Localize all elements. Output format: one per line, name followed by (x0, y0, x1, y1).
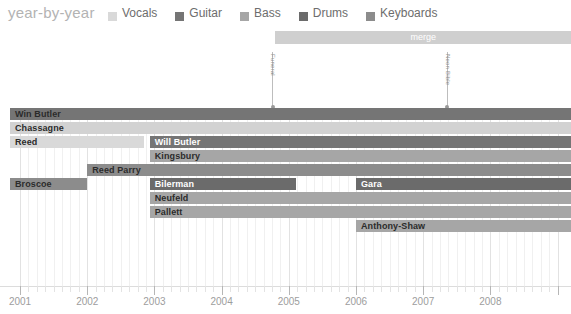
axis-tick (87, 286, 88, 295)
axis-tick (448, 286, 449, 292)
legend-item-guitar[interactable]: Guitar (175, 6, 222, 24)
axis-tick (432, 286, 433, 292)
timeline-bar-broscoe[interactable]: Broscoe (10, 178, 87, 190)
legend-label: Vocals (122, 6, 157, 20)
axis-tick-label: 2001 (9, 296, 31, 307)
axis-tick (499, 286, 500, 292)
timeline-bar-reed[interactable]: Reed (10, 136, 144, 148)
axis-tick (255, 286, 256, 292)
timeline-row: Neufeld (0, 192, 571, 204)
axis-tick (205, 286, 206, 292)
x-axis: 20012002200320042005200620072008 (0, 286, 571, 314)
timeline-row: BroscoeBilermanGara (0, 178, 571, 190)
axis-tick-label: 2007 (412, 296, 434, 307)
album-marker-label: Neon Bible (445, 54, 451, 85)
merge-period-bar: merge (275, 31, 571, 44)
axis-tick (62, 286, 63, 292)
chart-root: year-by-year VocalsGuitarBassDrumsKeyboa… (0, 0, 571, 314)
axis-tick (532, 286, 533, 292)
timeline-bar-will-butler[interactable]: Will Butler (150, 136, 571, 148)
axis-tick (45, 286, 46, 292)
legend-item-keyboards[interactable]: Keyboards (366, 6, 437, 24)
legend-item-vocals[interactable]: Vocals (108, 6, 157, 24)
axis-tick (264, 286, 265, 292)
axis-tick (339, 286, 340, 292)
timeline-bar-bilerman[interactable]: Bilerman (150, 178, 296, 190)
axis-tick (129, 286, 130, 292)
axis-tick (163, 286, 164, 292)
axis-tick (516, 286, 517, 292)
axis-tick (70, 286, 71, 292)
axis-tick (306, 286, 307, 292)
axis-tick (364, 286, 365, 292)
chart-legend: VocalsGuitarBassDrumsKeyboards (108, 6, 455, 22)
legend-swatch-icon (240, 12, 249, 21)
timeline-bar-reed-parry[interactable]: Reed Parry (87, 164, 571, 176)
axis-tick (381, 286, 382, 292)
timeline-row: Anthony-Shaw (0, 220, 571, 232)
timeline-bar-win-butler[interactable]: Win Butler (10, 108, 571, 120)
timeline-bar-chassagne[interactable]: Chassagne (10, 122, 571, 134)
axis-tick (558, 286, 559, 295)
timeline-bar-gara[interactable]: Gara (356, 178, 571, 190)
album-marker-label: Funeral (270, 54, 276, 76)
axis-tick (415, 286, 416, 292)
axis-tick (474, 286, 475, 292)
axis-tick (121, 286, 122, 292)
timeline-row: ReedWill Butler (0, 136, 571, 148)
axis-tick-label: 2005 (278, 296, 300, 307)
timeline-row: Kingsbury (0, 150, 571, 162)
axis-tick-label: 2003 (143, 296, 165, 307)
axis-tick (482, 286, 483, 292)
timeline-bar-anthony-shaw[interactable]: Anthony-Shaw (356, 220, 571, 232)
legend-item-drums[interactable]: Drums (299, 6, 348, 24)
legend-swatch-icon (366, 12, 375, 21)
timeline-bar-label: Kingsbury (155, 151, 200, 161)
axis-tick (28, 286, 29, 292)
axis-tick (247, 286, 248, 292)
axis-rule (0, 286, 571, 287)
axis-tick (541, 286, 542, 292)
legend-label: Bass (254, 6, 281, 20)
legend-label: Keyboards (380, 6, 437, 20)
axis-tick (37, 286, 38, 292)
axis-tick (96, 286, 97, 292)
axis-tick (423, 286, 424, 295)
axis-tick (104, 286, 105, 292)
axis-tick (154, 286, 155, 295)
axis-tick (196, 286, 197, 292)
axis-tick (238, 286, 239, 292)
axis-tick (406, 286, 407, 292)
axis-tick (79, 286, 80, 292)
axis-tick (457, 286, 458, 292)
axis-tick-label: 2006 (345, 296, 367, 307)
page-title: year-by-year (8, 4, 95, 21)
axis-tick (171, 286, 172, 292)
axis-tick-label: 2004 (211, 296, 233, 307)
axis-tick (398, 286, 399, 292)
timeline-row: Pallett (0, 206, 571, 218)
axis-tick-label: 2002 (76, 296, 98, 307)
axis-tick (524, 286, 525, 292)
axis-tick (373, 286, 374, 292)
axis-tick (146, 286, 147, 292)
timeline-bar-neufeld[interactable]: Neufeld (150, 192, 571, 204)
axis-tick (356, 286, 357, 295)
timeline-bar-label: Win Butler (15, 109, 61, 119)
legend-swatch-icon (299, 12, 308, 21)
timeline-row: Win Butler (0, 108, 571, 120)
timeline-bar-label: Chassagne (15, 123, 64, 133)
timeline-row: Reed Parry (0, 164, 571, 176)
axis-tick (289, 286, 290, 295)
axis-tick (490, 286, 491, 295)
timeline-bar-pallett[interactable]: Pallett (150, 206, 571, 218)
axis-tick (280, 286, 281, 292)
axis-tick (322, 286, 323, 292)
axis-tick (213, 286, 214, 292)
timeline-bar-label: Pallett (155, 207, 183, 217)
plot-area: Win ButlerChassagneReedWill ButlerKingsb… (0, 108, 571, 286)
legend-item-bass[interactable]: Bass (240, 6, 281, 24)
axis-tick (297, 286, 298, 292)
axis-tick (54, 286, 55, 292)
timeline-bar-kingsbury[interactable]: Kingsbury (150, 150, 571, 162)
